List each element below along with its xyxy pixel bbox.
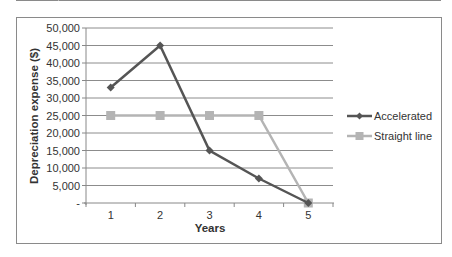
y-tick-label: 30,000 xyxy=(46,92,80,104)
x-tick-label: 5 xyxy=(305,209,311,221)
x-axis-title: Years xyxy=(195,222,226,234)
legend-item-straight-line: Straight line xyxy=(347,130,432,142)
x-tick-label: 3 xyxy=(206,209,212,221)
x-tick-label: 2 xyxy=(157,209,163,221)
x-tick-label: 4 xyxy=(256,209,262,221)
square-marker-icon xyxy=(106,111,115,120)
y-tick-label: 20,000 xyxy=(46,127,80,139)
legend-item-accelerated: Accelerated xyxy=(347,110,432,122)
y-axis-tick-labels: -5,00010,00015,00020,00025,00030,00035,0… xyxy=(46,22,80,209)
y-tick-label: 45,000 xyxy=(46,40,80,52)
square-marker-icon xyxy=(254,111,263,120)
legend: Accelerated Straight line xyxy=(347,110,432,142)
y-tick-label: 10,000 xyxy=(46,162,80,174)
diamond-marker-icon xyxy=(356,113,363,120)
legend-label-accelerated: Accelerated xyxy=(374,110,432,122)
y-tick-label: 50,000 xyxy=(46,22,80,34)
legend-label-straight-line: Straight line xyxy=(374,130,432,142)
x-tick-label: 1 xyxy=(108,209,114,221)
series-line-accelerated xyxy=(111,46,309,204)
y-tick-label: - xyxy=(76,197,80,209)
square-marker-icon xyxy=(205,111,214,120)
series-line-straight-line xyxy=(111,116,309,204)
square-marker-icon xyxy=(156,111,165,120)
depreciation-line-chart: -5,00010,00015,00020,00025,00030,00035,0… xyxy=(0,0,452,257)
y-tick-label: 25,000 xyxy=(46,110,80,122)
y-tick-label: 35,000 xyxy=(46,75,80,87)
y-axis-title: Depreciation expense ($) xyxy=(28,48,40,184)
series-lines xyxy=(106,42,313,208)
y-tick-label: 5,000 xyxy=(52,180,80,192)
x-axis-tick-labels: 12345 xyxy=(86,203,333,221)
y-tick-label: 40,000 xyxy=(46,57,80,69)
y-tick-label: 15,000 xyxy=(46,145,80,157)
square-marker-icon xyxy=(356,132,364,140)
